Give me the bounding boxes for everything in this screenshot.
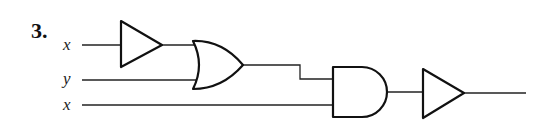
input-label-x-top: x <box>62 35 71 54</box>
input-label-x-bottom: x <box>62 95 71 114</box>
buffer-gate-1-icon <box>121 21 162 67</box>
buffer-gate-2-icon <box>423 69 464 118</box>
and-gate-icon <box>333 67 387 117</box>
problem-number: 3. <box>31 18 48 43</box>
logic-circuit-diagram: 3. x y x <box>0 0 555 129</box>
or-gate-icon <box>193 41 243 89</box>
wire-or-to-and <box>243 65 333 79</box>
input-label-y: y <box>61 69 71 88</box>
